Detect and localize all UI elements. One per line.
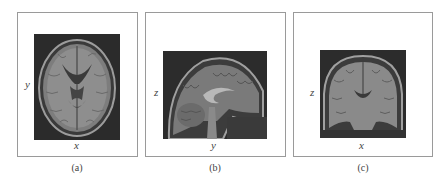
axis-label-x: x [74,140,79,151]
sagittal-mri-image [163,51,267,139]
axis-label-y: y [211,140,216,151]
caption-c: (c) [357,163,368,173]
coronal-brain-graphic [320,50,406,138]
axis-label-z: z [154,87,158,98]
axial-mri-image [34,34,120,140]
coronal-mri-image [320,50,406,138]
caption-b: (b) [209,163,221,173]
axis-label-x: x [359,140,364,151]
sagittal-brain-graphic [163,51,267,139]
caption-a: (a) [71,163,82,173]
axial-brain-graphic [34,34,120,140]
axis-label-z: z [310,87,314,98]
axis-label-y: y [25,79,30,90]
